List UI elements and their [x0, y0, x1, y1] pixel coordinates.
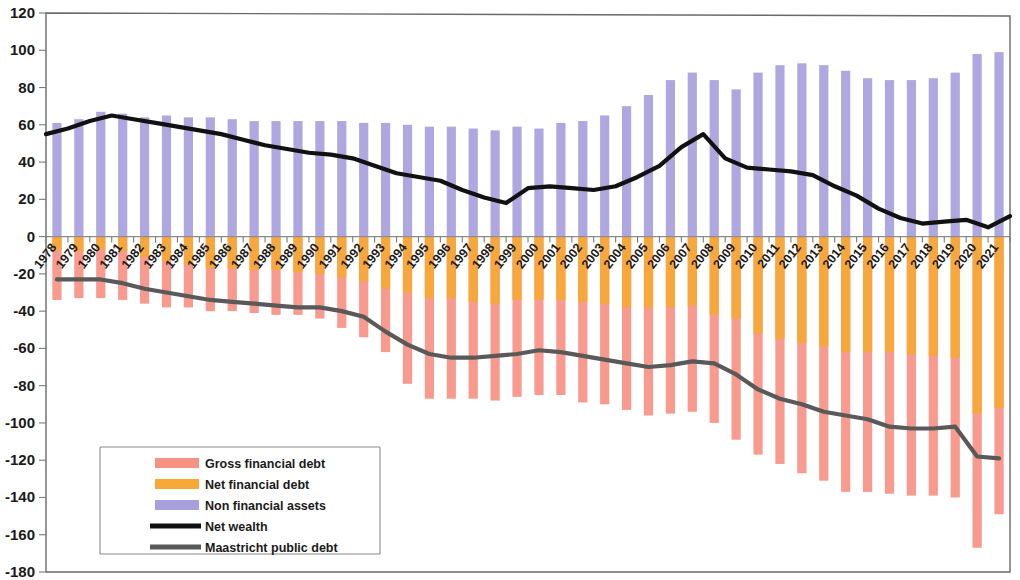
bar-non-financial-assets	[929, 78, 938, 236]
bar-non-financial-assets	[447, 127, 456, 237]
bar-non-financial-assets	[74, 119, 83, 236]
y-tick-label: 80	[18, 79, 35, 96]
bar-non-financial-assets	[512, 127, 521, 237]
bar-non-financial-assets	[775, 65, 784, 236]
bar-non-financial-assets	[797, 63, 806, 236]
y-tick-label: 60	[18, 116, 35, 133]
y-tick-label: -40	[13, 302, 35, 319]
bar-non-financial-assets	[250, 121, 259, 237]
legend-label: Non financial assets	[205, 499, 326, 513]
bar-non-financial-assets	[140, 117, 149, 236]
bar-non-financial-assets	[710, 80, 719, 237]
bar-non-financial-assets	[622, 106, 631, 236]
bar-non-financial-assets	[973, 54, 982, 237]
bar-non-financial-assets	[556, 123, 565, 237]
y-tick-label: -160	[5, 526, 35, 543]
bar-non-financial-assets	[863, 78, 872, 236]
bar-non-financial-assets	[469, 129, 478, 237]
chart-container: 120100806040200-20-40-60-80-100-120-140-…	[0, 0, 1020, 580]
bar-non-financial-assets	[184, 117, 193, 236]
y-axis-ticks: 120100806040200-20-40-60-80-100-120-140-…	[5, 4, 46, 580]
bar-non-financial-assets	[425, 127, 434, 237]
bar-non-financial-assets	[206, 117, 215, 236]
y-tick-label: 100	[10, 41, 35, 58]
bar-non-financial-assets	[52, 123, 61, 237]
bar-non-financial-assets	[118, 114, 127, 237]
bar-non-financial-assets	[841, 71, 850, 237]
y-tick-label: -80	[13, 377, 35, 394]
bar-net-financial-debt	[994, 237, 1003, 408]
bar-non-financial-assets	[162, 115, 171, 236]
bar-non-financial-assets	[534, 129, 543, 237]
legend-label: Gross financial debt	[205, 457, 326, 471]
y-tick-label: -120	[5, 451, 35, 468]
bar-non-financial-assets	[271, 121, 280, 237]
bar-non-financial-assets	[688, 73, 697, 237]
bar-non-financial-assets	[96, 112, 105, 237]
y-tick-label: -20	[13, 265, 35, 282]
y-tick-label: -180	[5, 563, 35, 580]
balance-sheet-chart: 120100806040200-20-40-60-80-100-120-140-…	[0, 0, 1020, 580]
y-tick-label: -100	[5, 414, 35, 431]
bar-non-financial-assets	[315, 121, 324, 237]
legend-label: Net wealth	[205, 520, 268, 534]
line-maastricht_public_debt	[57, 279, 999, 458]
bar-non-financial-assets	[491, 130, 500, 236]
bar-non-financial-assets	[907, 80, 916, 237]
bar-non-financial-assets	[293, 121, 302, 237]
y-tick-label: 20	[18, 190, 35, 207]
bar-non-financial-assets	[753, 73, 762, 237]
legend-swatch-bar	[155, 458, 199, 468]
bar-non-financial-assets	[381, 123, 390, 237]
bar-non-financial-assets	[359, 123, 368, 237]
bar-non-financial-assets	[578, 121, 587, 237]
bar-non-financial-assets	[600, 115, 609, 236]
y-tick-label: -60	[13, 339, 35, 356]
bar-non-financial-assets	[819, 65, 828, 236]
y-tick-label: -140	[5, 488, 35, 505]
bar-non-financial-assets	[994, 52, 1003, 236]
legend-label: Maastricht public debt	[205, 541, 338, 555]
y-tick-label: 120	[10, 4, 35, 21]
y-tick-label: 0	[27, 228, 35, 245]
legend-swatch-bar	[155, 500, 199, 510]
legend-label: Net financial debt	[205, 478, 310, 492]
chart-legend: Gross financial debtNet financial debtNo…	[100, 447, 380, 555]
legend-swatch-bar	[155, 479, 199, 489]
bar-non-financial-assets	[403, 125, 412, 237]
bar-non-financial-assets	[644, 95, 653, 237]
y-tick-label: 40	[18, 153, 35, 170]
bar-non-financial-assets	[337, 121, 346, 237]
bar-non-financial-assets	[951, 73, 960, 237]
